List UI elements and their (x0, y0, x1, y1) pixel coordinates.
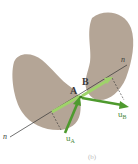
arrowhead-ub (119, 101, 129, 109)
point-label-b: B (82, 77, 89, 87)
right-body (85, 13, 133, 100)
velocity-label-ua-sub: A (71, 138, 75, 144)
point-label-a: A (70, 86, 77, 96)
velocity-label-ub: uB (118, 110, 127, 120)
line-label-n-start: n (3, 133, 7, 141)
line-label-n-end: n (121, 56, 125, 64)
velocity-label-ua: uA (66, 134, 75, 144)
figure-caption: (b) (88, 154, 96, 161)
contact-point (79, 95, 82, 98)
velocity-label-ub-sub: B (123, 114, 127, 120)
